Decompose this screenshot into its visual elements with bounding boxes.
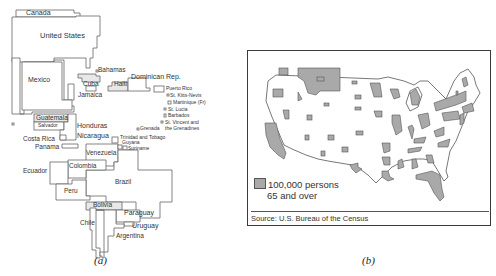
legend-swatch — [254, 178, 266, 189]
country-label: Chile — [80, 219, 95, 226]
country-label: Grenada — [140, 125, 160, 131]
caption-b: (b) — [362, 254, 375, 266]
symbol-pennsylvania — [442, 111, 460, 121]
country-label: United States — [40, 31, 85, 40]
americas-cartogram: CanadaUnited StatesMexicoBahamasCubaDomi… — [0, 0, 246, 276]
symbol-florida — [416, 171, 444, 201]
country-label: Venezuela — [86, 149, 117, 156]
legend-label-line1: 100,000 persons — [268, 179, 339, 190]
country-label: Honduras — [77, 122, 108, 129]
country-label: Haiti — [114, 80, 127, 87]
symbol-south-dakota — [355, 95, 361, 99]
country-label: Dominican Rep. — [131, 73, 181, 81]
legend: 100,000 persons 65 and over — [254, 178, 339, 201]
symbol-kansas — [356, 131, 363, 135]
country-label: Panama — [35, 143, 60, 150]
americas-labels: CanadaUnited StatesMexicoBahamasCubaDomi… — [0, 0, 246, 276]
country-label: Jamaica — [78, 91, 103, 98]
symbol-montana-inner — [317, 77, 324, 81]
country-label: Uruguay — [132, 222, 159, 230]
country-label: Martinique (Fr) — [173, 99, 206, 105]
source-note: Source: U.S. Bureau of the Census — [251, 211, 489, 223]
symbol-north-dakota — [352, 81, 357, 84]
symbol-arizona — [305, 135, 309, 140]
symbol-louisiana — [382, 171, 394, 181]
caption-a: (a) — [94, 254, 107, 266]
country-label: Peru — [64, 187, 78, 194]
country-label: Guatemala — [36, 114, 68, 121]
country-label: Brazil — [115, 178, 132, 185]
symbol-oregon — [273, 89, 283, 97]
country-label: the Grenadines — [165, 125, 200, 131]
symbol-alabama — [412, 159, 418, 169]
symbol-new-jersey — [460, 113, 464, 125]
symbol-washington — [279, 68, 288, 75]
us-elderly-map: 100,000 persons 65 and over Source: U.S.… — [247, 50, 491, 226]
symbol-new-mexico — [321, 151, 325, 156]
symbol-wyoming — [324, 103, 329, 106]
country-label: Canada — [26, 9, 51, 16]
symbol-oklahoma — [342, 147, 348, 152]
country-label: Bahamas — [98, 66, 126, 73]
country-label: Mexico — [28, 76, 50, 83]
legend-label-line2: 65 and over — [254, 190, 339, 201]
country-label: Salvador — [38, 122, 58, 128]
country-label: Suriname — [128, 145, 150, 151]
country-label: Argentina — [116, 232, 144, 240]
country-label: Nicaragua — [77, 132, 109, 140]
symbol-vermont — [456, 91, 458, 95]
country-label: Puerto Rico — [166, 85, 192, 91]
country-label: Paraguay — [124, 209, 154, 217]
country-label: Barbados — [168, 112, 190, 118]
country-label: St. Kitts-Nevis — [170, 92, 202, 98]
country-label: Bolivia — [93, 201, 113, 208]
country-label: Costa Rica — [23, 135, 55, 142]
country-label: Cuba — [83, 80, 99, 87]
country-label: Colombia — [69, 162, 97, 169]
country-label: Ecuador — [23, 167, 48, 174]
symbol-utah — [307, 115, 312, 120]
symbol-colorado — [328, 135, 334, 140]
symbol-nebraska — [355, 107, 361, 110]
